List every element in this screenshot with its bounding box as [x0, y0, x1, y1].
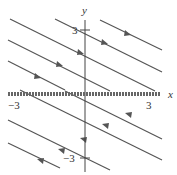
x-tick-pos: 3 [146, 99, 152, 111]
y-tick-neg: −3 [63, 152, 75, 164]
x-label: x [167, 88, 173, 100]
x-tick-neg: −3 [8, 99, 20, 111]
y-tick-pos: 3 [72, 24, 78, 36]
phase-portrait: y x −3 3 3 −3 [0, 0, 177, 175]
y-label: y [81, 4, 87, 16]
plot: y x −3 3 3 −3 [0, 0, 177, 175]
